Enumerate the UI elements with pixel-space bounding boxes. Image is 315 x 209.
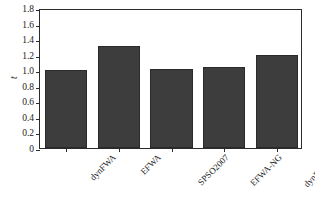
y-axis-tick-label: 1.4 — [22, 36, 34, 46]
x-axis-tick — [119, 148, 120, 152]
bar-series — [40, 10, 301, 148]
y-axis-tick-label: 0 — [29, 145, 34, 155]
y-axis-tick-label: 0.4 — [22, 114, 34, 124]
x-axis-tick-label: EFWA-NG — [249, 153, 284, 188]
plot-area: 00.20.40.60.81.01.21.41.61.8 — [39, 9, 302, 149]
bar — [256, 55, 298, 148]
y-axis-tick-label: 0.8 — [22, 83, 34, 93]
x-axis-tick-label: SPSO2007 — [196, 153, 230, 187]
x-axis-tick-label: dynFWA-G — [302, 153, 315, 189]
y-axis-tick — [36, 150, 40, 151]
y-axis-tick-label: 1.8 — [22, 5, 34, 15]
y-axis-tick-label: 0.6 — [22, 99, 34, 109]
y-axis-tick-label: 0.2 — [22, 130, 34, 140]
y-axis-tick-label: 1.0 — [22, 67, 34, 77]
y-axis-title: t — [8, 76, 19, 79]
bar-chart-figure: t 00.20.40.60.81.01.21.41.61.8 dynFWAEFW… — [0, 0, 315, 209]
bar — [45, 70, 87, 148]
x-axis-tick — [66, 148, 67, 152]
bar — [150, 69, 192, 148]
bar — [203, 67, 245, 148]
x-axis-tick — [172, 148, 173, 152]
x-axis-tick-label: dynFWA — [89, 153, 118, 182]
y-axis-tick-label: 1.2 — [22, 52, 34, 62]
x-axis-tick-label: EFWA — [139, 153, 163, 177]
bar — [98, 46, 140, 148]
y-axis-tick-label: 1.6 — [22, 21, 34, 31]
